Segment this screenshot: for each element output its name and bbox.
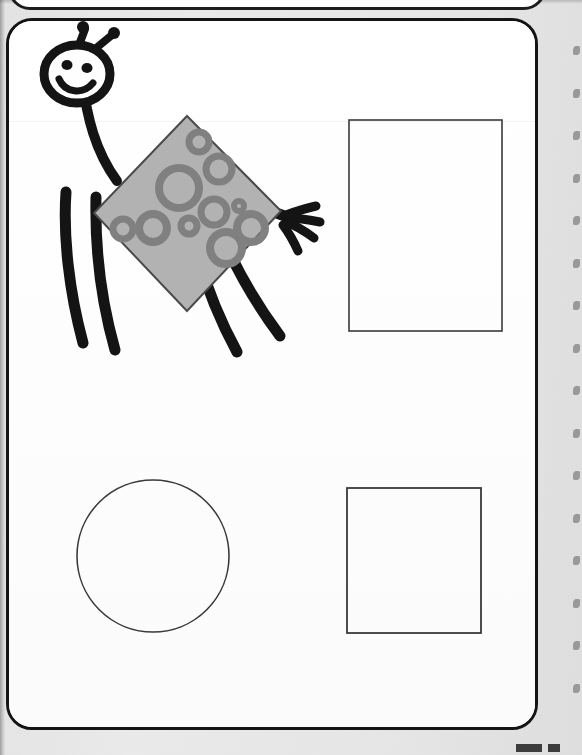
page-number-mark-1 (516, 744, 542, 752)
shape-circle (77, 480, 229, 632)
panel-top-partial (8, 0, 546, 10)
shape-square (347, 488, 481, 633)
binding-perforation-mark (573, 429, 580, 438)
artwork-layer (9, 21, 535, 727)
eye-left (62, 60, 73, 70)
binding-perforation-mark (573, 216, 580, 225)
worksheet-page (0, 0, 582, 755)
binding-perforation-mark (573, 599, 580, 608)
binding-perforation-mark (573, 259, 580, 268)
binding-perforation-mark (573, 301, 580, 310)
binding-perforation-mark (573, 46, 580, 55)
binding-perforation-mark (573, 684, 580, 693)
binding-perforation-mark (573, 174, 580, 183)
shape-tall-rectangle (349, 120, 502, 331)
figure-head (44, 21, 120, 103)
binding-perforation-mark (573, 641, 580, 650)
figure-hand (283, 206, 320, 251)
binding-perforation-mark (573, 89, 580, 98)
left-edge-shadow (0, 0, 5, 755)
eye-right (82, 63, 93, 73)
binding-perforation-mark (573, 556, 580, 565)
binding-perforation-mark (573, 344, 580, 353)
figure-body-diamond (94, 116, 281, 311)
page-number-mark-2 (548, 744, 560, 752)
panel-main (6, 18, 538, 730)
binding-perforation-mark (573, 514, 580, 523)
binding-perforation-mark (573, 386, 580, 395)
binding-perforation-mark (573, 471, 580, 480)
worksheet-artwork (9, 21, 538, 730)
binding-perforation-mark (573, 131, 580, 140)
